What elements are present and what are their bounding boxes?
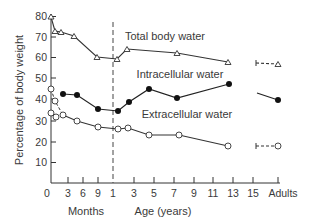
svg-text:30: 30 [35,115,47,127]
svg-text:Adults: Adults [268,187,297,199]
svg-text:11: 11 [208,187,219,199]
svg-text:70: 70 [35,31,47,43]
label-extracellular-water: Extracellular water [142,108,233,120]
svg-text:80: 80 [35,10,47,22]
svg-text:5: 5 [151,187,157,199]
x-label-months: Months [68,205,105,217]
svg-text:60: 60 [35,51,47,63]
svg-text:20: 20 [35,136,47,148]
x-label-age-years: Age (years) [135,205,192,217]
svg-text:50: 50 [35,72,47,84]
svg-text:10: 10 [35,156,47,168]
label-intracellular-water: Intracellular water [137,68,224,80]
svg-text:6: 6 [80,187,86,199]
svg-text:40: 40 [35,93,47,105]
svg-text:0: 0 [44,187,50,199]
x-tick-labels: 3 6 9 1 3 5 7 9 11 13 15 Adults [65,187,298,199]
y-tick-labels: 80 70 60 50 40 30 20 10 0 [35,10,50,199]
svg-text:3: 3 [65,187,71,199]
label-total-body-water: Total body water [125,30,205,42]
series-total-body-water: Total body water [48,14,281,67]
svg-text:15: 15 [247,187,259,199]
svg-text:13: 13 [227,187,239,199]
series-extracellular-water: Extracellular water [48,86,281,149]
svg-text:1: 1 [110,187,116,199]
svg-text:7: 7 [171,187,177,199]
svg-text:3: 3 [131,187,137,199]
svg-text:9: 9 [95,187,101,199]
body-water-chart: 80 70 60 50 40 30 20 10 0 3 6 9 1 3 5 7 … [0,0,309,223]
y-axis-label: Percentage of body weight [13,35,25,165]
svg-text:9: 9 [191,187,197,199]
